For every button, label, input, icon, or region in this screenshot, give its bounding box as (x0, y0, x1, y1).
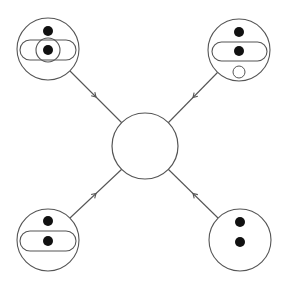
center-node (112, 113, 178, 179)
filled-dot (234, 27, 244, 37)
edge-bottom-right (168, 169, 218, 218)
hollow-dot (233, 66, 245, 78)
node-bottom-left (17, 209, 79, 271)
diagram-svg (0, 0, 286, 286)
node-top-right (208, 19, 270, 81)
diagram-canvas (0, 0, 286, 286)
filled-dot (235, 237, 245, 247)
filled-dot (43, 26, 53, 36)
filled-dot (43, 216, 53, 226)
filled-dot (43, 236, 53, 246)
edge-top-left (70, 71, 122, 123)
edge-bottom-left (70, 169, 122, 218)
filled-dot (43, 45, 53, 55)
filled-dot (234, 46, 244, 56)
node-top-left (17, 18, 79, 80)
edge-top-right (168, 72, 218, 123)
center-circle (112, 113, 178, 179)
node-bottom-right (209, 209, 271, 271)
filled-dot (235, 217, 245, 227)
